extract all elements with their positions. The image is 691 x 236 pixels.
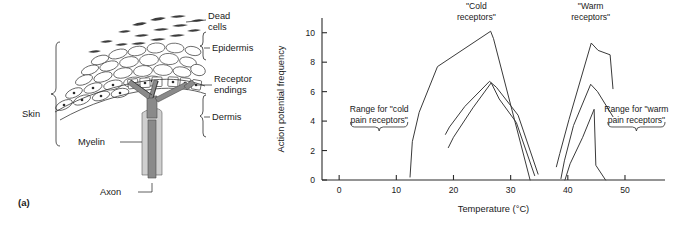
x-axis-title: Temperature (°C) — [458, 204, 529, 214]
cold-receptors-label-line2: receptors" — [457, 12, 496, 22]
anatomy-panel: Dead cells Epidermis Receptor endings De… — [0, 0, 300, 236]
skin-brace — [51, 42, 60, 146]
anatomy-leader-lines — [120, 20, 212, 192]
y-tick-label: 4 — [310, 116, 315, 126]
label-skin: Skin — [22, 109, 40, 119]
figure-root: Dead cells Epidermis Receptor endings De… — [0, 0, 691, 236]
label-receptor-endings-line2: endings — [214, 85, 247, 95]
cold-receptors-label-line1: "Cold — [466, 1, 487, 11]
label-receptor-endings-line1: Receptor — [214, 74, 252, 84]
y-axis-title: Action potential frequency — [276, 45, 286, 152]
x-tick-label: 50 — [620, 185, 630, 195]
y-tick-label: 10 — [305, 28, 315, 38]
warm-receptors-label-line1: "Warm — [578, 1, 604, 11]
y-tick-label: 2 — [310, 146, 315, 156]
anatomy-diagram: Dead cells Epidermis Receptor endings De… — [0, 0, 300, 236]
warm-pain-range-label-line2: pain receptors" — [608, 115, 666, 125]
chart-panel: 010203040500246810Temperature (°C)Action… — [270, 0, 691, 236]
x-tick-label: 10 — [392, 185, 402, 195]
label-myelin: Myelin — [78, 137, 105, 147]
x-tick-label: 0 — [337, 185, 342, 195]
x-tick-label: 20 — [449, 185, 459, 195]
nerve-fiber — [128, 80, 195, 178]
y-tick-label: 8 — [310, 57, 315, 67]
series-warm-receptor-3 — [565, 109, 606, 180]
label-axon: Axon — [100, 187, 121, 197]
cold-pain-range-label-line2: pain receptors" — [350, 115, 408, 125]
label-epidermis: Epidermis — [212, 43, 254, 53]
x-tick-label: 40 — [563, 185, 573, 195]
cold-pain-range-label-line1: Range for "cold — [350, 104, 409, 114]
label-dead-cells-line1: Dead — [208, 11, 230, 21]
series-warm-receptor-2 — [561, 84, 613, 178]
temperature-response-chart: 010203040500246810Temperature (°C)Action… — [270, 0, 691, 236]
series-cold-receptor-1 — [410, 31, 530, 180]
label-dermis: Dermis — [212, 112, 242, 122]
warm-receptors-label-line2: receptors" — [571, 12, 610, 22]
panel-letter: (a) — [18, 197, 30, 208]
y-tick-label: 6 — [310, 87, 315, 97]
y-tick-label: 0 — [310, 175, 315, 185]
label-dead-cells-line2: cells — [208, 22, 227, 32]
warm-pain-range-label-line1: Range for "warm — [604, 104, 668, 114]
series-cold-receptor-3 — [448, 83, 534, 176]
x-tick-label: 30 — [506, 185, 516, 195]
